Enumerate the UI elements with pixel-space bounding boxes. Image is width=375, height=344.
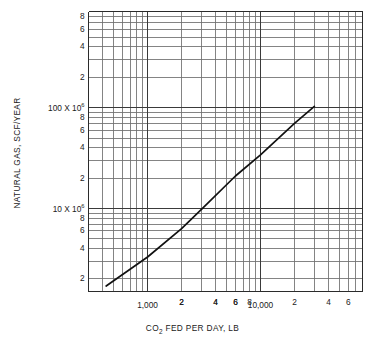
y-tick-label: 6 xyxy=(71,225,85,235)
y-axis-title: NATURAL GAS, SCF/YEAR xyxy=(12,68,22,238)
y-tick-label: 4 xyxy=(71,41,85,51)
x-tick-label: 2 xyxy=(175,297,189,307)
x-axis-title-prefix: CO xyxy=(146,323,159,333)
x-axis-title: CO2 FED PER DAY, LB xyxy=(0,323,375,335)
grid-major-lines xyxy=(89,12,363,292)
x-tick-label: 2 xyxy=(288,297,302,307)
x-tick-label: 1,000 xyxy=(128,300,168,310)
grid-minor-lines xyxy=(89,12,363,292)
data-series-line xyxy=(106,106,314,286)
chart-container: 246810 X 1062468100 X 1062468 2461,00024… xyxy=(0,0,375,344)
x-tick-label: 4 xyxy=(209,297,223,307)
y-tick-label: 2 xyxy=(71,72,85,82)
y-tick-label: 100 X 106 xyxy=(23,102,85,113)
x-axis-title-rest: FED PER DAY, LB xyxy=(163,323,239,333)
x-tick-label: 4 xyxy=(322,297,336,307)
y-tick-label: 10 X 106 xyxy=(23,203,85,214)
plot-frame xyxy=(89,12,363,292)
y-tick-label: 8 xyxy=(71,213,85,223)
y-tick-label: 8 xyxy=(71,11,85,21)
y-tick-label: 4 xyxy=(71,142,85,152)
x-tick-label: 6 xyxy=(341,297,355,307)
log-log-chart xyxy=(0,0,375,344)
y-tick-label: 6 xyxy=(71,125,85,135)
y-tick-label: 2 xyxy=(71,273,85,283)
y-tick-label: 6 xyxy=(71,24,85,34)
y-tick-label: 4 xyxy=(71,243,85,253)
y-tick-label: 2 xyxy=(71,173,85,183)
x-tick-label: 8 xyxy=(243,297,257,307)
y-tick-label: 8 xyxy=(71,112,85,122)
x-tick-label: 6 xyxy=(228,297,242,307)
